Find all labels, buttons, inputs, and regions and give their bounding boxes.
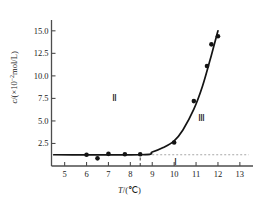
chart-container: c/(×10−2mol/L) T/(℃) 56789101112132.55.0… bbox=[0, 0, 259, 207]
data-point bbox=[216, 34, 221, 39]
data-point bbox=[192, 99, 197, 104]
x-tick-label: 12 bbox=[208, 169, 228, 179]
x-tick-label: 9 bbox=[142, 169, 162, 179]
x-tick-label: 8 bbox=[120, 169, 140, 179]
y-axis-label: c/(×10−2mol/L) bbox=[9, 32, 20, 122]
region-label: Ⅱ bbox=[112, 92, 117, 103]
y-axis-symbol: c bbox=[9, 100, 19, 104]
x-tick-label: 10 bbox=[164, 169, 184, 179]
data-point-markers bbox=[84, 34, 220, 161]
y-tick-label: 5.0 bbox=[23, 116, 49, 126]
x-tick-label: 11 bbox=[186, 169, 206, 179]
data-point bbox=[205, 64, 210, 69]
fitted-curve bbox=[54, 31, 218, 155]
y-tick-label: 15.0 bbox=[23, 26, 49, 36]
x-tick-label: 7 bbox=[98, 169, 118, 179]
data-point bbox=[172, 140, 177, 145]
data-point bbox=[209, 42, 214, 47]
x-axis-label: T/(℃) bbox=[0, 185, 259, 195]
region-label: Ⅲ bbox=[198, 112, 205, 123]
region-label: Ⅰ bbox=[174, 156, 177, 167]
data-point bbox=[95, 156, 100, 161]
x-tick-label: 5 bbox=[55, 169, 75, 179]
y-tick-label: 12.5 bbox=[23, 48, 49, 58]
data-point bbox=[138, 152, 143, 157]
y-tick-label: 2.5 bbox=[23, 138, 49, 148]
x-tick-label: 13 bbox=[230, 169, 250, 179]
y-tick-label: 7.5 bbox=[23, 93, 49, 103]
y-tick-label: 10.0 bbox=[23, 71, 49, 81]
data-point bbox=[84, 152, 89, 157]
x-tick-label: 6 bbox=[77, 169, 97, 179]
data-point bbox=[106, 152, 111, 157]
data-point bbox=[123, 152, 128, 157]
